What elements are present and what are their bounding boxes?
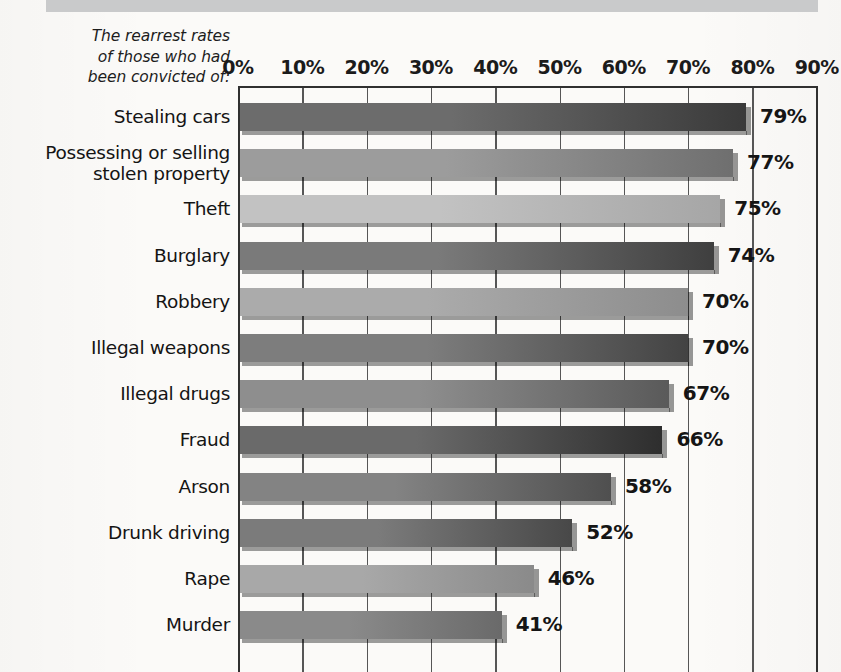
bar-fill: [238, 149, 733, 177]
category-label-line: Rape: [0, 568, 230, 590]
bar-value-label: 79%: [760, 104, 806, 128]
x-axis-tick-90: 90%: [795, 56, 839, 78]
category-label-line: Illegal weapons: [0, 337, 230, 359]
bar-murder: [238, 611, 502, 639]
bar-illegal-weapons: [238, 334, 688, 362]
category-label-rape: Rape: [0, 568, 230, 590]
bar-fill: [238, 426, 662, 454]
category-label-fraud: Fraud: [0, 429, 230, 451]
bar-base-shadow: [242, 131, 747, 135]
bar-row: 52%: [238, 510, 818, 556]
category-label-column: Stealing carsPossessing or sellingstolen…: [0, 86, 230, 672]
category-label-line: Illegal drugs: [0, 383, 230, 405]
bar-value-label: 67%: [683, 381, 729, 405]
x-axis-tick-20: 20%: [345, 56, 389, 78]
bar-row: 70%: [238, 279, 818, 325]
bar-row: 66%: [238, 417, 818, 463]
bar-drunk-driving: [238, 519, 572, 547]
category-label-line: Drunk driving: [0, 522, 230, 544]
bar-value-label: 74%: [728, 243, 774, 267]
bar-base-shadow: [242, 639, 503, 643]
x-axis-tick-30: 30%: [409, 56, 453, 78]
bar-value-label: 41%: [516, 612, 562, 636]
category-label-line: Arson: [0, 476, 230, 498]
bar-value-label: 75%: [734, 196, 780, 220]
category-label-line: Fraud: [0, 429, 230, 451]
category-label-line: Possessing or selling: [0, 142, 230, 163]
category-label-line: stolen property: [0, 163, 230, 184]
bar-arson: [238, 473, 611, 501]
x-axis-tick-10: 10%: [280, 56, 324, 78]
bar-value-label: 77%: [747, 150, 793, 174]
category-label-murder: Murder: [0, 614, 230, 636]
bar-row: 77%: [238, 140, 818, 186]
bar-possessing-or-selling-stolen-property: [238, 149, 733, 177]
chart-caption-line-0: The rearrest rates: [8, 26, 230, 47]
category-label-line: Stealing cars: [0, 106, 230, 128]
bar-theft: [238, 195, 720, 223]
bar-robbery: [238, 288, 688, 316]
category-label-theft: Theft: [0, 198, 230, 220]
bar-fill: [238, 473, 611, 501]
bar-fill: [238, 103, 746, 131]
category-label-line: Murder: [0, 614, 230, 636]
category-label-illegal-weapons: Illegal weapons: [0, 337, 230, 359]
x-axis-tick-70: 70%: [666, 56, 710, 78]
bar-row: 41%: [238, 602, 818, 648]
bar-fraud: [238, 426, 662, 454]
bar-value-label: 52%: [586, 520, 632, 544]
bar-base-shadow: [242, 593, 535, 597]
bar-row: 75%: [238, 186, 818, 232]
category-label-line: Robbery: [0, 291, 230, 313]
bar-fill: [238, 565, 534, 593]
x-axis-tick-0: 0%: [222, 56, 253, 78]
category-label-illegal-drugs: Illegal drugs: [0, 383, 230, 405]
bar-base-shadow: [242, 501, 612, 505]
x-axis-tick-80: 80%: [730, 56, 774, 78]
bar-fill: [238, 288, 688, 316]
category-label-stealing-cars: Stealing cars: [0, 106, 230, 128]
x-axis-tick-labels: 0%10%20%30%40%50%60%70%80%90%: [0, 56, 841, 78]
bar-row: 46%: [238, 556, 818, 602]
bar-base-shadow: [242, 408, 670, 412]
bar-value-label: 58%: [625, 474, 671, 498]
category-label-line: Theft: [0, 198, 230, 220]
bar-value-label: 70%: [702, 335, 748, 359]
category-label-arson: Arson: [0, 476, 230, 498]
bar-rape: [238, 565, 534, 593]
bar-fill: [238, 334, 688, 362]
category-label-burglary: Burglary: [0, 245, 230, 267]
bar-row: 79%: [238, 94, 818, 140]
bar-fill: [238, 380, 669, 408]
bar-value-label: 70%: [702, 289, 748, 313]
bar-value-label: 46%: [548, 566, 594, 590]
bar-row: 58%: [238, 464, 818, 510]
bar-burglary: [238, 242, 714, 270]
category-label-robbery: Robbery: [0, 291, 230, 313]
bar-row: 74%: [238, 233, 818, 279]
bar-illegal-drugs: [238, 380, 669, 408]
x-axis-tick-40: 40%: [473, 56, 517, 78]
bar-value-label: 66%: [676, 427, 722, 451]
category-label-drunk-driving: Drunk driving: [0, 522, 230, 544]
bar-row: 67%: [238, 371, 818, 417]
category-label-possessing-or-selling-stolen-property: Possessing or sellingstolen property: [0, 142, 230, 184]
page-header-bar: [46, 0, 818, 12]
bar-base-shadow: [242, 316, 689, 320]
bar-stealing-cars: [238, 103, 746, 131]
bar-fill: [238, 519, 572, 547]
bar-row: 70%: [238, 325, 818, 371]
bar-base-shadow: [242, 270, 715, 274]
bar-base-shadow: [242, 362, 689, 366]
x-axis-tick-60: 60%: [602, 56, 646, 78]
bar-fill: [238, 195, 720, 223]
category-label-line: Burglary: [0, 245, 230, 267]
bar-base-shadow: [242, 223, 721, 227]
x-axis-tick-50: 50%: [538, 56, 582, 78]
bar-base-shadow: [242, 547, 573, 551]
bar-fill: [238, 611, 502, 639]
plot-area: 79%77%75%74%70%70%67%66%58%52%46%41%: [238, 86, 818, 672]
bar-fill: [238, 242, 714, 270]
bar-base-shadow: [242, 454, 663, 458]
bar-base-shadow: [242, 177, 734, 181]
